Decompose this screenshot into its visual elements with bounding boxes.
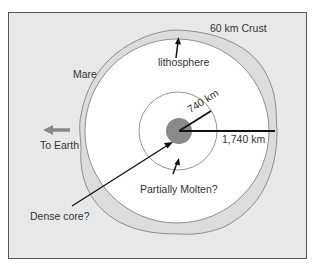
mare-label: Mare — [73, 69, 97, 80]
partially-molten-label: Partially Molten? — [140, 184, 218, 195]
dense-core-label: Dense core? — [30, 211, 90, 222]
outer-radius-label: 1,740 km — [222, 134, 265, 145]
to-earth-label: To Earth — [40, 140, 79, 151]
moon-cross-section — [0, 0, 317, 267]
to-earth-arrow-icon — [43, 125, 53, 135]
crust-label: 60 km Crust — [210, 23, 267, 34]
lithosphere-label: lithosphere — [158, 57, 209, 68]
